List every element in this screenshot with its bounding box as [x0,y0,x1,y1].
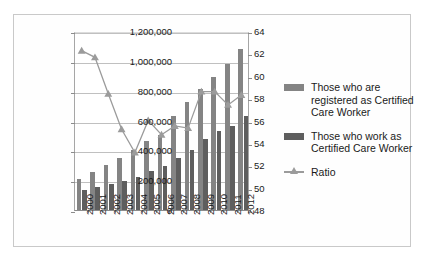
ratio-marker-triangle-icon[interactable] [237,91,245,98]
chart-frame: 0200,000400,000600,000800,0001,000,0001,… [13,14,411,247]
y-tick-label-left: 1,000,000 [102,57,172,67]
bar-swatch-light-icon [284,84,304,91]
x-tick-label: 2000 [85,194,95,215]
y-tick-label-right: 60 [254,72,294,82]
x-tick-label: 2010 [219,194,229,215]
y-tick-label-left: 600,000 [102,117,172,127]
y-tick-label-left: 200,000 [102,176,172,186]
x-tick-label: 2005 [152,194,162,215]
ratio-marker-triangle-icon[interactable] [91,53,99,60]
y-tick-label-right: 48 [254,206,294,216]
legend-item-ratio[interactable]: Ratio [284,166,424,179]
legend-label: Ratio [311,166,424,179]
y-tick-label-right: 62 [254,49,294,59]
x-tick-label: 2007 [179,194,189,215]
chart-legend: Those who are registered as Certified Ca… [284,81,424,189]
y-tick-label-left: 1,200,000 [102,27,172,37]
x-tick-label: 2004 [139,194,149,215]
y-tick-mark-right [248,123,252,124]
x-tick-label: 2006 [166,194,176,215]
y-tick-mark-right [248,100,252,101]
ratio-marker-triangle-icon[interactable] [118,125,126,132]
x-tick-label: 2002 [112,194,122,215]
triangle-marker-icon [290,167,298,174]
legend-item-working[interactable]: Those who work as Certified Care Worker [284,130,424,155]
y-tick-label-left: 400,000 [102,146,172,156]
x-tick-label: 2008 [192,194,202,215]
x-tick-label: 2012 [246,194,256,215]
legend-item-registered[interactable]: Those who are registered as Certified Ca… [284,81,424,119]
x-tick-label: 2003 [125,194,135,215]
x-tick-label: 2009 [206,194,216,215]
ratio-marker-triangle-icon[interactable] [78,47,86,54]
y-tick-mark-right [248,55,252,56]
y-tick-mark-right [248,167,252,168]
y-tick-mark-left [71,212,75,213]
y-tick-mark-right [248,145,252,146]
legend-label: Those who work as Certified Care Worker [311,130,424,155]
y-tick-mark-right [248,33,252,34]
x-tick-label: 2011 [233,195,243,215]
x-tick-label: 2001 [98,194,108,215]
y-tick-mark-right [248,78,252,79]
y-tick-label-left: 800,000 [102,87,172,97]
ratio-marker-triangle-icon[interactable] [171,122,179,129]
y-tick-label-right: 64 [254,27,294,37]
legend-label: Those who are registered as Certified Ca… [311,81,424,119]
bar-swatch-dark-icon [284,133,304,140]
y-tick-mark-right [248,190,252,191]
